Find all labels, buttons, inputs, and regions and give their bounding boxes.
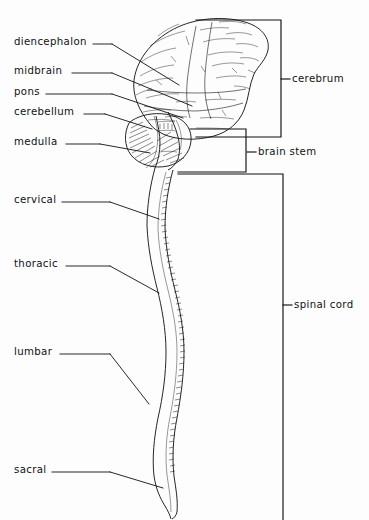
label-spinal-cord-text: spinal cord [294,299,354,310]
label-sacral-text: sacral [14,464,47,475]
label-diencephalon-text: diencephalon [14,36,87,47]
label-midbrain-text: midbrain [14,65,62,76]
label-cervical-text: cervical [14,194,56,205]
cns-diagram-canvas: diencephalon midbrain pons cerebellum me… [0,0,369,520]
label-medulla-text: medulla [14,136,57,147]
label-lumbar-text: lumbar [14,346,53,357]
label-thoracic-text: thoracic [14,258,58,269]
label-brain-stem-text: brain stem [258,146,316,157]
label-pons-text: pons [14,86,40,97]
anatomy-figure: diencephalon midbrain pons cerebellum me… [0,0,369,520]
label-cerebrum-text: cerebrum [292,73,344,84]
label-cerebellum-text: cerebellum [14,106,74,117]
